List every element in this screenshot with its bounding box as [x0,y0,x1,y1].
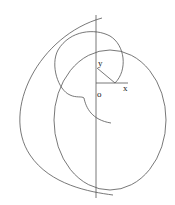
diagonal-radius [97,68,115,83]
y-label: y [98,58,103,68]
cardioid-curve [55,32,123,123]
geometry-diagram: y o x [0,0,175,205]
origin-label: o [97,89,102,99]
x-label: x [123,83,128,93]
outer-arc [20,18,113,195]
large-circle [54,50,166,190]
